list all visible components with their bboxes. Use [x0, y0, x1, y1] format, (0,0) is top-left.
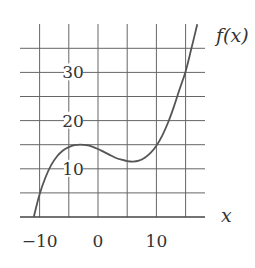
x-tick-label: −10 [22, 231, 58, 251]
y-axis-label: f(x) [214, 24, 249, 46]
x-tick-label: 0 [93, 231, 104, 251]
x-tick-label: 10 [146, 231, 168, 251]
x-tick-labels: −10010 [22, 231, 168, 251]
y-tick-label: 10 [62, 159, 84, 179]
grid [20, 24, 205, 217]
x-axis-label: x [221, 204, 232, 226]
y-tick-label: 30 [62, 62, 84, 82]
function-graph: −10010 102030 f(x) x [0, 0, 255, 268]
y-tick-labels: 102030 [62, 62, 84, 178]
y-tick-label: 20 [62, 111, 84, 131]
